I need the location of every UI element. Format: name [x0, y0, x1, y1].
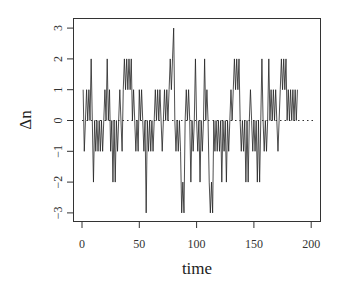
y-axis-title: Δn: [16, 110, 35, 130]
y-tick-label: 2: [51, 56, 65, 62]
y-tick-label: −1: [51, 145, 65, 158]
plot-frame: [74, 19, 321, 222]
x-tick-label: 150: [245, 237, 263, 251]
time-series-chart: −3−2−10123 050100150200 time Δn: [0, 0, 338, 288]
y-axis: −3−2−10123: [51, 25, 74, 219]
x-tick-label: 0: [79, 237, 85, 251]
y-tick-label: −3: [51, 207, 65, 220]
y-tick-label: 3: [51, 25, 65, 31]
y-tick-label: 1: [51, 87, 65, 93]
y-tick-label: 0: [51, 118, 65, 124]
x-axis-title: time: [182, 259, 212, 278]
y-tick-label: −2: [51, 176, 65, 189]
x-axis: 050100150200: [79, 222, 320, 252]
x-tick-label: 200: [302, 237, 320, 251]
x-tick-label: 100: [188, 237, 206, 251]
x-tick-label: 50: [133, 237, 145, 251]
